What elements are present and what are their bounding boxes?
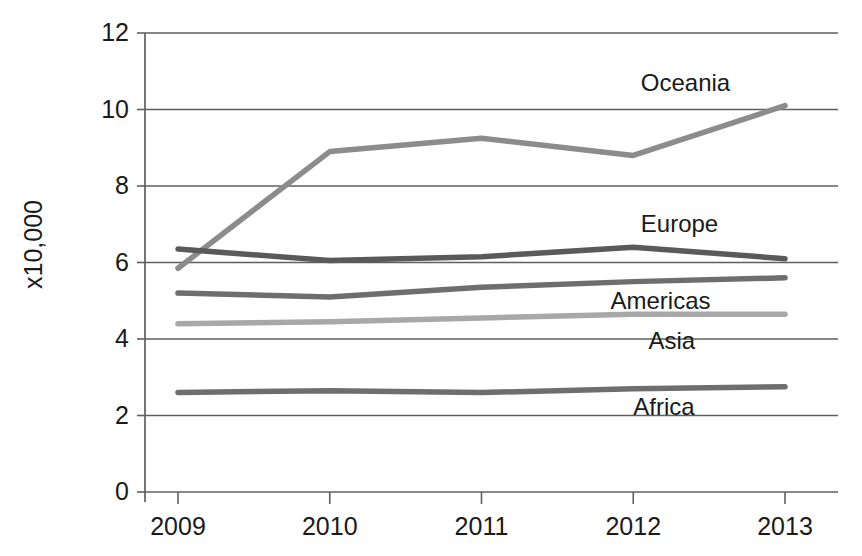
series-label-europe: Europe <box>641 212 718 236</box>
y-tick-label: 10 <box>69 97 129 122</box>
y-tick-label: 6 <box>69 250 129 275</box>
y-tick-label: 4 <box>69 326 129 351</box>
plot-area <box>0 0 862 556</box>
x-tick-label: 2011 <box>422 514 542 539</box>
x-tick-label: 2009 <box>118 514 238 539</box>
series-line-europe <box>178 247 785 260</box>
x-tick-label: 2012 <box>573 514 693 539</box>
line-chart: x10,000 024681012 20092010201120122013 O… <box>0 0 862 556</box>
series-line-africa <box>178 387 785 393</box>
series-label-africa: Africa <box>633 395 694 419</box>
series-line-oceania <box>178 106 785 269</box>
y-tick-label: 2 <box>69 403 129 428</box>
y-axis-title: x10,000 <box>21 175 46 315</box>
series-label-oceania: Oceania <box>641 71 730 95</box>
gridlines <box>145 33 838 492</box>
y-tick-label: 8 <box>69 173 129 198</box>
series-line-asia <box>178 314 785 324</box>
y-tick-label: 0 <box>69 479 129 504</box>
y-tick-label: 12 <box>69 20 129 45</box>
series-label-americas: Americas <box>610 289 710 313</box>
series-label-asia: Asia <box>648 329 695 353</box>
x-tick-label: 2010 <box>270 514 390 539</box>
x-tick-label: 2013 <box>725 514 845 539</box>
axes <box>137 33 785 504</box>
